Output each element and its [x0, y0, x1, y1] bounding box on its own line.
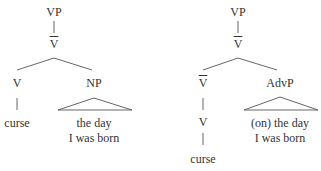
edge-vbar-np	[54, 58, 92, 70]
node-v-left: V	[13, 76, 22, 90]
node-vbar-left: V	[50, 37, 59, 51]
node-advp: AdvP	[266, 76, 293, 90]
edge-vbar-vbar-right	[203, 58, 238, 70]
np-phrase-line1: the day	[77, 116, 112, 130]
terminal-curse-right: curse	[190, 152, 215, 166]
advp-triangle	[244, 97, 318, 110]
edge-vbar-advp	[238, 58, 277, 70]
advp-phrase-line1: (on) the day	[251, 116, 309, 130]
node-vbar-lower-right: V	[199, 76, 208, 90]
syntax-tree-diagram: VP V V NP curse the day I was born VP V …	[0, 0, 321, 171]
node-v-right: V	[199, 115, 208, 129]
np-triangle	[58, 98, 132, 110]
node-vp-right: VP	[230, 5, 245, 19]
edge-vbar-v-left	[17, 58, 54, 70]
advp-phrase-line2: I was born	[255, 131, 306, 145]
node-vp-left: VP	[46, 5, 61, 19]
np-phrase-line2: I was born	[69, 131, 120, 145]
node-np: NP	[86, 76, 101, 90]
node-vbar-right: V	[234, 37, 243, 51]
terminal-curse-left: curse	[4, 116, 29, 130]
